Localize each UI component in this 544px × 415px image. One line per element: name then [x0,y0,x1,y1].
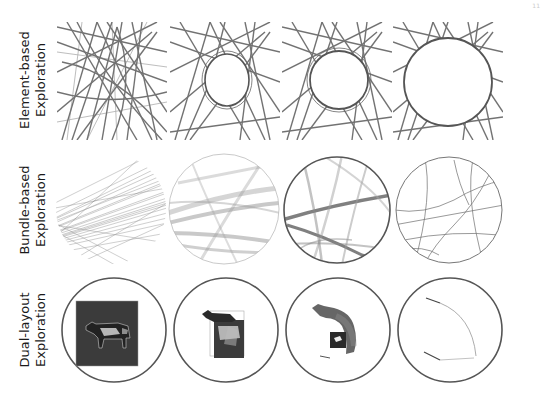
row-label-element-line2: Exploration [33,15,49,145]
row-label-dual-line1: Dual-layout [17,265,33,395]
partially-bundled-edges-graphic [168,153,280,265]
dual-panel-4 [396,276,504,384]
row-label-element: Element-based Exploration [17,15,53,145]
row-label-element-line1: Element-based [17,15,33,145]
bundle-panel-2 [168,153,280,265]
edge-strokes-full-lens-graphic [393,22,503,140]
unbundled-edges-graphic [55,153,167,265]
edge-strokes-lens-graphic [282,22,392,140]
row-label-bundle-line1: Bundle-based [17,145,33,275]
lens-with-cow-image-graphic [60,276,168,384]
edge-strokes-graphic [57,22,167,140]
bundle-panel-1 [55,153,167,265]
dual-panel-1 [60,276,168,384]
element-panel-4 [393,22,503,140]
dual-panel-2 [172,276,280,384]
element-panel-1 [57,22,167,140]
edge-strokes-lens-graphic [170,22,280,140]
row-label-dual-line2: Exploration [33,265,49,395]
dual-panel-3 [284,276,392,384]
lens-with-arc-trajectory-graphic [396,276,504,384]
bundle-panel-3 [282,155,392,265]
lens-with-arc-cow-graphic [284,276,392,384]
element-panel-3 [282,22,392,140]
lens-with-shrinking-cow-graphic [172,276,280,384]
page-number: 11 [532,2,540,9]
row-label-dual: Dual-layout Exploration [17,265,53,395]
row-label-bundle-line2: Exploration [33,145,49,275]
bundle-panel-4 [394,155,504,265]
bundled-paths-graphic [282,155,392,265]
element-panel-2 [170,22,280,140]
skeleton-bundles-graphic [394,155,504,265]
row-label-bundle: Bundle-based Exploration [17,145,53,275]
